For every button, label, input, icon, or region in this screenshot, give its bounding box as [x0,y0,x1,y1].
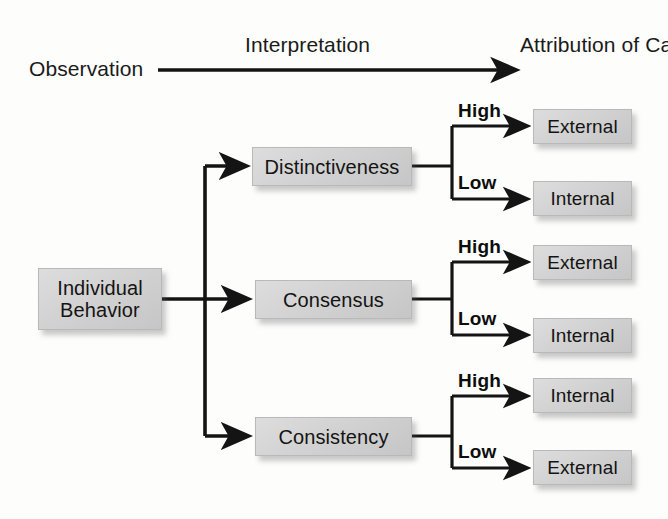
observation-label: Observation [29,57,143,81]
branch-label-consistency-high: High [458,371,501,391]
criterion-node-consensus: Consensus [255,280,412,319]
outcome-consistency-low: External [533,450,632,485]
outcome-consensus-high: External [533,245,632,280]
individual-behavior-node: Individual Behavior [38,268,162,330]
outcome-distinctiveness-high: External [533,109,632,144]
branch-label-consistency-low: Low [458,442,497,462]
branch-label-distinctiveness-high: High [458,101,501,121]
attribution-of-cause-label: Attribution of Cause [520,33,644,57]
outcome-consensus-low: Internal [533,318,632,353]
branch-label-consensus-low: Low [458,309,497,329]
outcome-consistency-high: Internal [533,378,632,413]
outcome-distinctiveness-low: Internal [533,181,632,216]
branch-label-consensus-high: High [458,237,501,257]
branch-label-distinctiveness-low: Low [458,173,497,193]
interpretation-label: Interpretation [245,33,370,57]
attribution-theory-diagram: Observation Interpretation Attribution o… [0,0,668,519]
criterion-node-consistency: Consistency [255,417,412,456]
criterion-node-distinctiveness: Distinctiveness [252,147,412,186]
